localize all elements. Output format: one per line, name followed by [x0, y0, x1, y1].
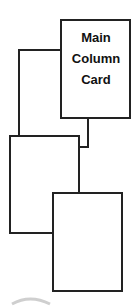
connector-main-left: [19, 50, 61, 136]
main-card-label: Main Column Card: [61, 20, 131, 90]
card-3[interactable]: [53, 193, 122, 291]
watermark-arc: [12, 299, 50, 304]
connector-main-bottom: [79, 118, 88, 147]
